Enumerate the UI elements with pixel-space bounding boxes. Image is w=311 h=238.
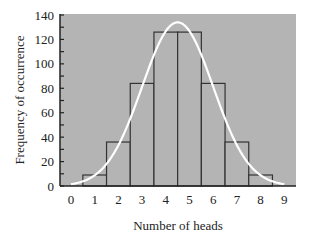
y-tick-label: 140 xyxy=(35,8,55,23)
x-tick-label: 9 xyxy=(281,192,288,207)
bar-2 xyxy=(107,142,131,186)
x-axis-title: Number of heads xyxy=(133,218,223,233)
y-tick-label: 20 xyxy=(41,154,54,169)
bar-7 xyxy=(225,142,249,186)
x-tick-label: 8 xyxy=(257,192,264,207)
x-tick-label: 3 xyxy=(139,192,146,207)
x-tick-label: 2 xyxy=(115,192,122,207)
bar-5 xyxy=(178,32,202,186)
y-tick-label: 120 xyxy=(35,32,55,47)
x-tick-label: 0 xyxy=(68,192,75,207)
y-tick-label: 60 xyxy=(41,105,54,120)
x-tick-label: 7 xyxy=(234,192,241,207)
y-tick-label: 100 xyxy=(35,56,55,71)
y-tick-label: 40 xyxy=(41,130,54,145)
y-tick-label: 0 xyxy=(48,179,55,194)
x-tick-label: 1 xyxy=(91,192,98,207)
histogram-chart: 020406080100120140 0123456789 Number of … xyxy=(0,0,311,238)
bar-6 xyxy=(201,83,225,186)
x-tick-label: 6 xyxy=(210,192,217,207)
bar-4 xyxy=(154,32,178,186)
x-tick-label: 5 xyxy=(186,192,193,207)
y-tick-label: 80 xyxy=(41,81,54,96)
x-tick-label: 4 xyxy=(163,192,170,207)
bar-3 xyxy=(130,83,154,186)
y-axis-title: Frequency of occurrence xyxy=(12,35,27,164)
x-axis: 0123456789 xyxy=(60,186,296,207)
y-axis: 020406080100120140 xyxy=(35,8,65,194)
